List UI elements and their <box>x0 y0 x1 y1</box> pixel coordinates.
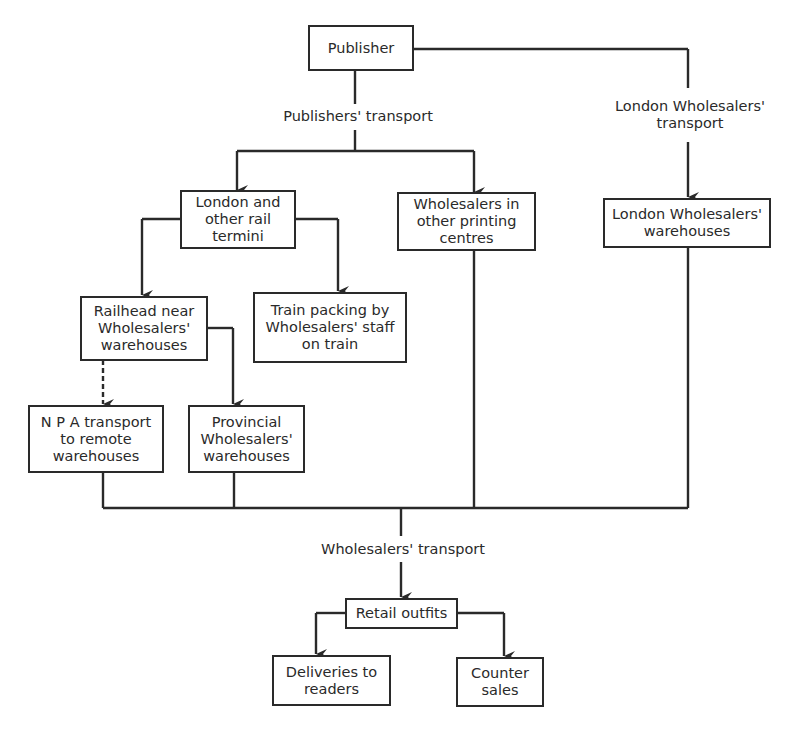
node-label: Wholesalers in other printing centres <box>413 196 519 247</box>
node-label: Retail outfits <box>356 605 448 622</box>
node-publisher: Publisher <box>308 25 414 71</box>
edge-label-london-wholesalers-transport: London Wholesalers' transport <box>600 98 780 132</box>
node-label: Provincial Wholesalers' warehouses <box>200 414 292 465</box>
node-label: London and other rail termini <box>195 194 280 245</box>
node-printing-centres: Wholesalers in other printing centres <box>397 192 536 251</box>
node-label: Railhead near Wholesalers' warehouses <box>94 303 194 354</box>
node-label: Train packing by Wholesalers' staff on t… <box>266 302 395 353</box>
node-deliveries: Deliveries to readers <box>272 655 391 706</box>
node-train-packing: Train packing by Wholesalers' staff on t… <box>253 292 407 363</box>
node-rail-termini: London and other rail termini <box>180 190 296 249</box>
node-npa-transport: N P A transport to remote warehouses <box>28 405 164 473</box>
node-provincial-warehouses: Provincial Wholesalers' warehouses <box>188 405 305 473</box>
edge-label-publishers-transport: Publishers' transport <box>270 108 446 125</box>
node-label: Publisher <box>328 40 395 57</box>
node-label: N P A transport to remote warehouses <box>41 414 151 465</box>
node-railhead: Railhead near Wholesalers' warehouses <box>80 296 208 361</box>
node-label: London Wholesalers' warehouses <box>612 206 762 240</box>
edge-label-wholesalers-transport: Wholesalers' transport <box>316 541 490 558</box>
node-label: Counter sales <box>471 665 529 699</box>
node-retail-outfits: Retail outfits <box>345 598 458 629</box>
node-label: Deliveries to readers <box>286 664 377 698</box>
node-counter-sales: Counter sales <box>456 657 544 707</box>
node-london-warehouses: London Wholesalers' warehouses <box>603 198 771 248</box>
